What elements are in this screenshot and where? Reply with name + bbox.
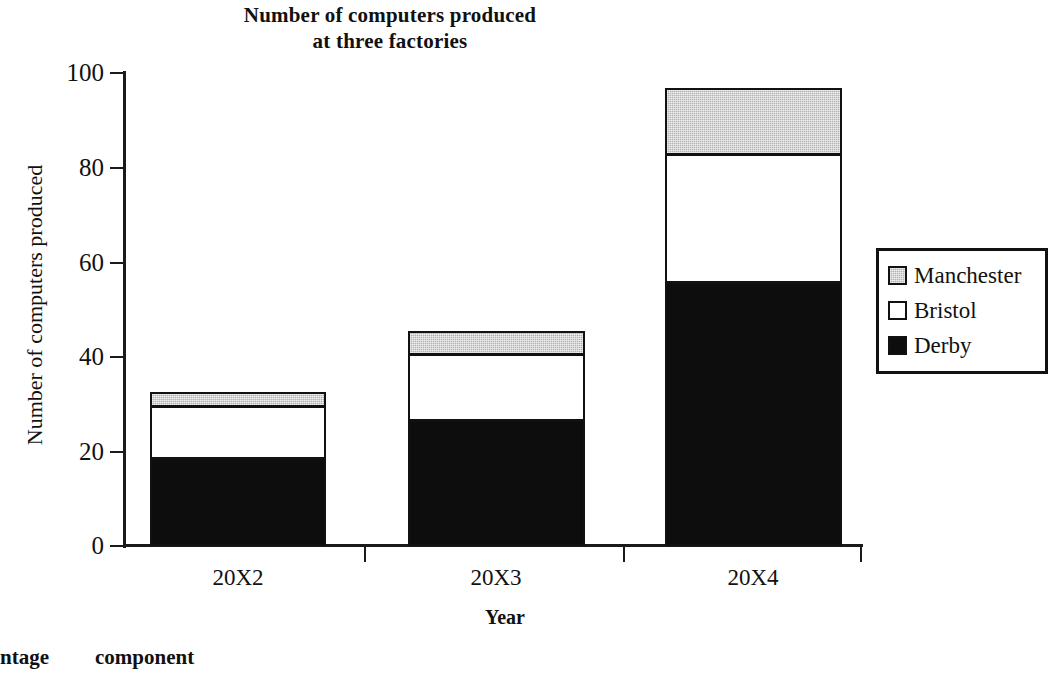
y-tick-label-60-wrap: 60: [22, 250, 104, 275]
legend-swatch-bristol-icon: [888, 301, 907, 320]
bar-segment-20X3-bristol[interactable]: [408, 354, 585, 421]
y-tick-label-0: 0: [30, 533, 104, 558]
y-tick-100: [110, 72, 124, 74]
chart-title-line-1: Number of computers produced: [120, 2, 660, 28]
x-tick-label-20X4: 20X4: [673, 563, 833, 593]
y-axis-line: [123, 71, 126, 548]
bar-group-20X2[interactable]: [150, 73, 326, 546]
bar-segment-20X2-bristol[interactable]: [150, 406, 326, 459]
bar-segment-20X3-manchester[interactable]: [408, 331, 585, 355]
legend-label-manchester: Manchester: [914, 264, 1021, 287]
caption-fragment-part-a: ntage: [0, 645, 49, 669]
y-tick-label-60: 60: [30, 250, 104, 275]
y-tick-label-20: 20: [30, 439, 104, 464]
legend[interactable]: Manchester Bristol Derby: [876, 248, 1048, 374]
y-tick-label-40: 40: [30, 344, 104, 369]
y-tick-label-100-wrap: 100: [22, 60, 104, 85]
x-tick-label-20X3: 20X3: [416, 563, 576, 593]
bar-segment-20X3-derby[interactable]: [408, 420, 585, 546]
y-tick-60: [110, 262, 124, 264]
y-tick-20: [110, 451, 124, 453]
bar-segment-20X2-manchester[interactable]: [150, 392, 326, 407]
chart-title-line-2: at three factories: [120, 28, 660, 54]
y-tick-80: [110, 167, 124, 169]
x-tick-label-20X2: 20X2: [158, 563, 318, 593]
bar-segment-20X4-manchester[interactable]: [665, 88, 842, 155]
legend-item-bristol[interactable]: Bristol: [888, 293, 1039, 328]
y-tick-label-100: 100: [30, 60, 104, 85]
y-tick-label-0-wrap: 0: [22, 533, 104, 558]
y-tick-label-40-wrap: 40: [22, 344, 104, 369]
bar-segment-20X4-bristol[interactable]: [665, 154, 842, 283]
y-tick-0: [110, 545, 124, 547]
y-tick-label-80: 80: [30, 155, 104, 180]
legend-item-derby[interactable]: Derby: [888, 328, 1039, 363]
legend-label-derby: Derby: [914, 334, 971, 357]
caption-fragment: ntagecomponent: [0, 645, 194, 670]
x-axis-title: Year: [425, 606, 585, 629]
legend-swatch-manchester-icon: [888, 266, 907, 285]
legend-label-bristol: Bristol: [914, 299, 977, 322]
x-tick-3: [860, 547, 862, 562]
bar-segment-20X4-derby[interactable]: [665, 282, 842, 546]
x-tick-2: [623, 547, 625, 562]
bar-group-20X3[interactable]: [408, 73, 585, 546]
legend-item-manchester[interactable]: Manchester: [888, 258, 1039, 293]
y-tick-label-80-wrap: 80: [22, 155, 104, 180]
legend-swatch-derby-icon: [888, 336, 907, 355]
bar-group-20X4[interactable]: [665, 73, 842, 546]
x-tick-1: [364, 547, 366, 562]
bar-segment-20X2-derby[interactable]: [150, 458, 326, 546]
y-tick-40: [110, 356, 124, 358]
caption-fragment-part-b: component: [95, 645, 194, 669]
y-tick-label-20-wrap: 20: [22, 439, 104, 464]
chart-title: Number of computers produced at three fa…: [120, 2, 660, 54]
